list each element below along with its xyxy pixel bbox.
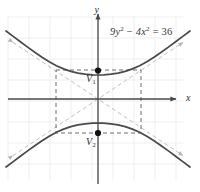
equation-annotation: 9y2 − 4x2 = 36 xyxy=(110,26,172,37)
vertex-2-subscript: 2 xyxy=(92,141,95,148)
equation-coef-x: 4x xyxy=(136,26,146,37)
y-axis-label: y xyxy=(95,4,99,15)
vertex-2-label: V2 xyxy=(86,136,95,147)
vertex-1-label: V1 xyxy=(86,73,95,84)
equation-minus: − xyxy=(124,26,136,37)
vertex-1-subscript: 1 xyxy=(92,78,95,85)
vertex-2-dot xyxy=(95,130,101,136)
hyperbola-figure: 9y2 − 4x2 = 36 y x V1 V2 xyxy=(0,0,200,192)
vertex-1-dot xyxy=(95,67,101,73)
equation-equals: = 36 xyxy=(150,26,173,37)
x-axis-label: x xyxy=(186,92,190,103)
equation-coef-y: 9y xyxy=(110,26,120,37)
